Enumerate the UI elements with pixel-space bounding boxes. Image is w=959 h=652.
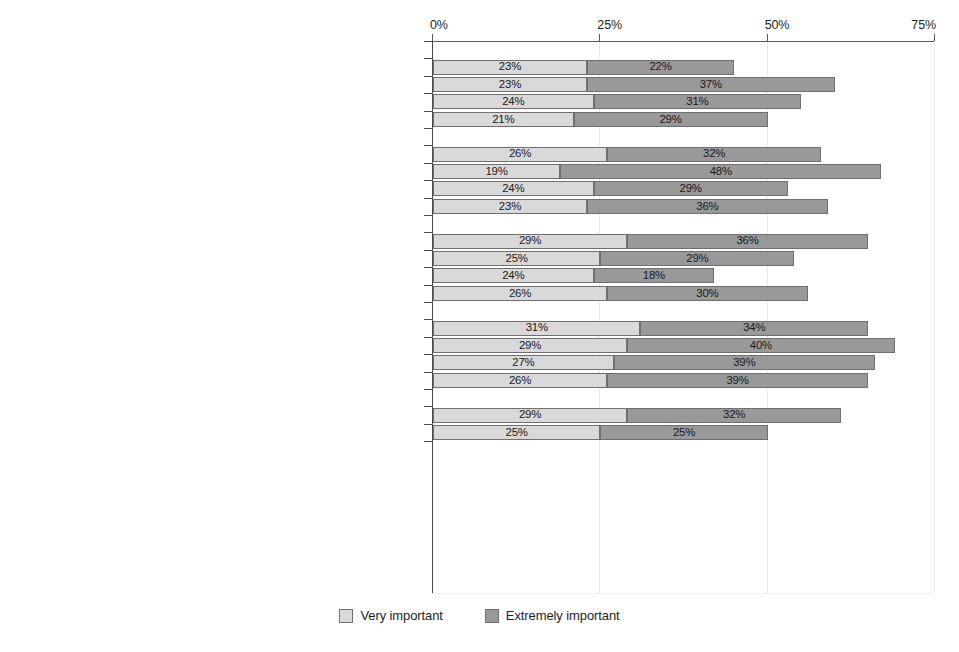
bar-segment-very-important[interactable]: 23%: [433, 199, 587, 214]
bar-value-label: 23%: [499, 79, 521, 90]
stacked-bar: 23%36%: [433, 199, 828, 214]
bar-value-label: 29%: [659, 114, 681, 125]
bar-value-label: 32%: [723, 409, 745, 420]
bar-value-label: 29%: [519, 409, 541, 420]
bar-segment-very-important[interactable]: 26%: [433, 286, 607, 301]
bar-segment-very-important[interactable]: 19%: [433, 164, 560, 179]
bar-segment-extremely-important[interactable]: 39%: [614, 355, 875, 370]
bar-segment-extremely-important[interactable]: 31%: [594, 94, 801, 109]
bar-segment-very-important[interactable]: 29%: [433, 408, 627, 423]
bar-segment-very-important[interactable]: 29%: [433, 234, 627, 249]
y-axis-tick: [424, 41, 433, 42]
chart-legend: Very importantExtremely important: [0, 608, 959, 623]
bar-segment-very-important[interactable]: 24%: [433, 268, 594, 283]
legend-swatch: [485, 609, 499, 623]
bar-value-label: 24%: [502, 96, 524, 107]
y-axis-tick: [424, 111, 433, 112]
y-axis-tick: [424, 232, 433, 233]
bar-segment-very-important[interactable]: 25%: [433, 251, 600, 266]
bar-segment-very-important[interactable]: 25%: [433, 425, 600, 440]
bar-segment-extremely-important[interactable]: 36%: [627, 234, 868, 249]
bar-value-label: 23%: [499, 61, 521, 72]
y-axis-tick: [424, 180, 433, 181]
stacked-bar: 19%48%: [433, 164, 881, 179]
y-axis-tick: [424, 76, 433, 77]
y-axis-tick: [424, 145, 433, 146]
bar-value-label: 25%: [506, 253, 528, 264]
bar-segment-very-important[interactable]: 24%: [433, 94, 594, 109]
bar-value-label: 48%: [710, 166, 732, 177]
bar-value-label: 26%: [509, 288, 531, 299]
y-axis-tick: [424, 441, 433, 442]
bar-segment-extremely-important[interactable]: 48%: [560, 164, 881, 179]
bar-value-label: 22%: [649, 61, 671, 72]
bar-value-label: 18%: [643, 270, 665, 281]
bar-segment-very-important[interactable]: 29%: [433, 338, 627, 353]
y-axis-tick: [424, 128, 433, 129]
bar-value-label: 21%: [492, 114, 514, 125]
bar-segment-extremely-important[interactable]: 40%: [627, 338, 895, 353]
bar-value-label: 36%: [696, 201, 718, 212]
bar-value-label: 29%: [686, 253, 708, 264]
bar-segment-extremely-important[interactable]: 25%: [600, 425, 767, 440]
bar-value-label: 29%: [519, 340, 541, 351]
y-axis-tick: [424, 58, 433, 59]
bar-segment-extremely-important[interactable]: 32%: [607, 147, 821, 162]
bar-value-label: 31%: [686, 96, 708, 107]
bar-segment-extremely-important[interactable]: 34%: [640, 321, 868, 336]
y-axis-tick: [424, 267, 433, 268]
bar-value-label: 23%: [499, 201, 521, 212]
bar-segment-extremely-important[interactable]: 39%: [607, 373, 868, 388]
stacked-bar: 21%29%: [433, 112, 768, 127]
bar-segment-extremely-important[interactable]: 29%: [594, 181, 788, 196]
bar-value-label: 25%: [506, 427, 528, 438]
bar-segment-very-important[interactable]: 23%: [433, 60, 587, 75]
y-axis-tick: [424, 424, 433, 425]
bar-value-label: 37%: [700, 79, 722, 90]
stacked-bar: 27%39%: [433, 355, 875, 370]
bar-segment-extremely-important[interactable]: 29%: [600, 251, 794, 266]
bar-segment-extremely-important[interactable]: 22%: [587, 60, 734, 75]
bar-value-label: 39%: [733, 357, 755, 368]
x-axis-tick-label: 25%: [597, 18, 622, 32]
legend-label: Very important: [360, 608, 442, 623]
bar-segment-extremely-important[interactable]: 37%: [587, 77, 835, 92]
bar-segment-very-important[interactable]: 26%: [433, 147, 607, 162]
bar-value-label: 19%: [485, 166, 507, 177]
plot-border-right: [934, 41, 935, 593]
stacked-bar: 24%31%: [433, 94, 801, 109]
legend-item[interactable]: Extremely important: [485, 608, 620, 623]
bar-segment-very-important[interactable]: 23%: [433, 77, 587, 92]
stacked-bar: 29%40%: [433, 338, 895, 353]
y-axis-tick: [424, 354, 433, 355]
stacked-bar: 25%29%: [433, 251, 794, 266]
bar-value-label: 34%: [743, 322, 765, 333]
bar-value-label: 32%: [703, 148, 725, 159]
bar-segment-very-important[interactable]: 24%: [433, 181, 594, 196]
y-axis-tick: [424, 337, 433, 338]
bar-segment-very-important[interactable]: 31%: [433, 321, 640, 336]
stacked-bar: 24%29%: [433, 181, 788, 196]
bar-segment-very-important[interactable]: 21%: [433, 112, 574, 127]
stacked-bar: 24%18%: [433, 268, 714, 283]
bar-value-label: 40%: [750, 340, 772, 351]
y-axis-tick: [424, 302, 433, 303]
bar-segment-extremely-important[interactable]: 32%: [627, 408, 841, 423]
bar-segment-very-important[interactable]: 27%: [433, 355, 614, 370]
bar-value-label: 29%: [680, 183, 702, 194]
bar-value-label: 27%: [512, 357, 534, 368]
stacked-bar: 26%30%: [433, 286, 808, 301]
x-axis-tick-label: 75%: [911, 18, 936, 32]
stacked-bar: 23%37%: [433, 77, 835, 92]
bar-segment-extremely-important[interactable]: 30%: [607, 286, 808, 301]
bar-segment-extremely-important[interactable]: 29%: [574, 112, 768, 127]
y-axis-tick: [424, 198, 433, 199]
bar-segment-extremely-important[interactable]: 18%: [594, 268, 714, 283]
bar-value-label: 30%: [696, 288, 718, 299]
stacked-bar: 26%32%: [433, 147, 821, 162]
bar-segment-very-important[interactable]: 26%: [433, 373, 607, 388]
legend-item[interactable]: Very important: [339, 608, 442, 623]
x-axis-tick-label: 0%: [430, 18, 448, 32]
bar-segment-extremely-important[interactable]: 36%: [587, 199, 828, 214]
stacked-bar: 29%36%: [433, 234, 868, 249]
